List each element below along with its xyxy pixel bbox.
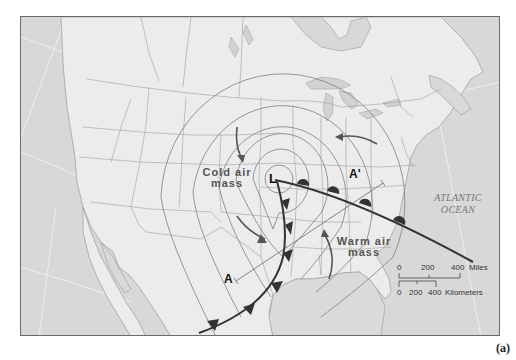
scale-km-400: 400 xyxy=(428,288,441,297)
scale-miles-200: 200 xyxy=(421,263,434,272)
warm-air-line2: mass xyxy=(331,247,397,258)
scale-bar-lines xyxy=(395,273,475,289)
ocean-line2: OCEAN xyxy=(423,204,493,216)
scale-km-200: 200 xyxy=(409,288,422,297)
scale-miles-0: 0 xyxy=(397,263,401,272)
figure-caption: (a) xyxy=(496,341,510,356)
warm-air-mass-label: Warm air mass xyxy=(331,236,397,258)
scale-km-0: 0 xyxy=(397,288,401,297)
scale-miles-unit: Miles xyxy=(469,263,488,272)
low-pressure-label: L xyxy=(269,171,277,186)
cross-section-a-label: A xyxy=(224,272,233,286)
scale-km-unit: Kilometers xyxy=(445,288,483,297)
atlantic-ocean-label: ATLANTIC OCEAN xyxy=(423,192,493,216)
ocean-line1: ATLANTIC xyxy=(423,192,493,204)
cross-section-a-prime-label: A' xyxy=(349,167,361,181)
cold-air-line2: mass xyxy=(197,178,257,189)
scale-bar: 0 200 400 Miles 0 200 400 Kilometers xyxy=(395,263,500,307)
scale-miles-400: 400 xyxy=(451,263,464,272)
weather-map: L Cold air mass Warm air mass ATLANTIC O… xyxy=(20,16,500,336)
cold-air-mass-label: Cold air mass xyxy=(197,167,257,189)
